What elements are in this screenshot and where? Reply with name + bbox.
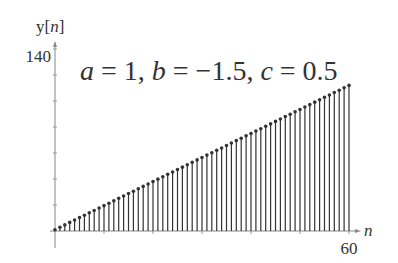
stem-marker	[112, 199, 116, 203]
stem-marker	[181, 165, 185, 169]
stem-marker	[166, 173, 170, 177]
stem-marker	[288, 112, 292, 116]
y-tick-label-140: 140	[26, 47, 52, 66]
y-axis-arrow-icon	[53, 41, 57, 47]
stem-marker	[83, 213, 87, 217]
stem-marker	[53, 228, 57, 232]
stem-marker	[254, 129, 258, 133]
stem-marker	[195, 158, 199, 162]
stem-marker	[235, 139, 239, 143]
stem-marker	[97, 206, 101, 210]
x-axis-arrow-icon	[355, 229, 361, 233]
y-axis-label-suffix: ]	[59, 17, 65, 36]
stem-marker	[132, 189, 136, 193]
stem-marker	[190, 161, 194, 165]
stem-marker	[156, 177, 160, 181]
stem-marker	[122, 194, 126, 198]
stem-marker	[264, 124, 268, 128]
stem-marker	[279, 117, 283, 121]
stem-marker	[215, 148, 219, 152]
stem-marker	[68, 221, 72, 225]
title-eq-c: = 0.5	[273, 55, 338, 86]
stem-marker	[274, 120, 278, 124]
stem-marker	[92, 209, 96, 213]
stem-marker	[210, 151, 214, 155]
stem-marker	[73, 218, 77, 222]
stem-marker	[146, 182, 150, 186]
stem-marker	[308, 103, 312, 107]
stem-marker	[249, 132, 253, 136]
stem-marker	[161, 175, 165, 179]
stem-marker	[328, 93, 332, 97]
y-axis-label: y[n]	[36, 17, 64, 36]
stem-marker	[284, 115, 288, 119]
stem-marker	[117, 197, 121, 201]
stem-marker	[269, 122, 273, 126]
stem-marker	[176, 168, 180, 172]
title-var-b: b	[152, 55, 166, 86]
stem-marker	[313, 100, 317, 104]
stem-marker	[137, 187, 141, 191]
stem-series	[53, 84, 351, 232]
stem-marker	[102, 204, 106, 208]
stem-marker	[186, 163, 190, 167]
stem-marker	[78, 216, 82, 220]
stem-marker	[171, 170, 175, 174]
chart-title: a = 1, b = −1.5, c = 0.5	[80, 55, 338, 86]
stem-marker	[333, 91, 337, 95]
title-eq-b: = −1.5,	[166, 55, 261, 86]
x-tick-label-60: 60	[341, 239, 358, 258]
stem-marker	[230, 141, 234, 145]
stem-marker	[298, 108, 302, 112]
stem-marker	[342, 86, 346, 90]
stem-marker	[303, 105, 307, 109]
stem-marker	[63, 223, 67, 227]
stem-marker	[151, 180, 155, 184]
title-var-c: c	[260, 55, 273, 86]
stem-marker	[337, 88, 341, 92]
stem-marker	[323, 96, 327, 100]
stem-marker	[107, 201, 111, 205]
stem-marker	[88, 211, 92, 215]
stem-marker	[58, 225, 62, 229]
stem-marker	[205, 153, 209, 157]
stem-marker	[220, 146, 224, 150]
stem-marker	[239, 137, 243, 141]
title-var-a: a	[80, 55, 94, 86]
stem-marker	[141, 185, 145, 189]
stem-marker	[244, 134, 248, 138]
stem-marker	[259, 127, 263, 131]
stem-chart: y[n] 140 n 60 a = 1, b = −1.5, c = 0.5	[0, 0, 398, 263]
x-axis-label: n	[364, 221, 373, 240]
y-axis-label-var: n	[50, 17, 59, 36]
y-axis-label-prefix: y[	[36, 17, 51, 36]
stem-marker	[225, 144, 229, 148]
stem-marker	[200, 156, 204, 160]
stem-marker	[318, 98, 322, 102]
title-eq-a: = 1,	[94, 55, 152, 86]
stem-marker	[347, 84, 351, 88]
stem-marker	[127, 192, 131, 196]
stem-marker	[293, 110, 297, 114]
y-axis	[53, 41, 57, 248]
